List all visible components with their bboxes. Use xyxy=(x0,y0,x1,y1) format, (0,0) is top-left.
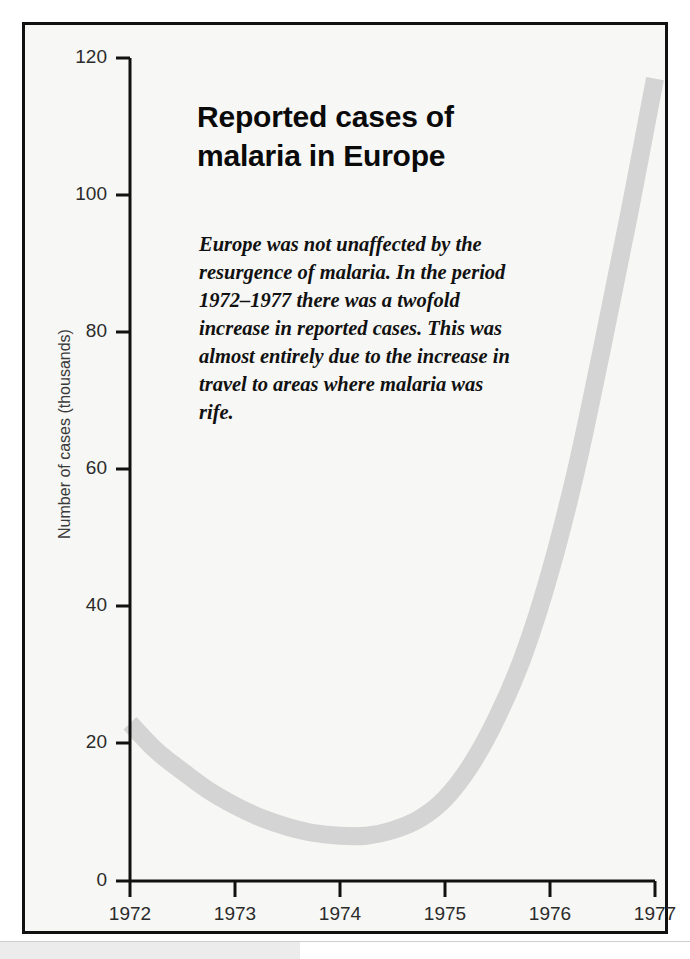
y-axis-title-text: Number of cases (thousands) xyxy=(56,329,73,539)
x-tick-label-1972: 1972 xyxy=(95,903,165,925)
y-axis-ticks xyxy=(116,58,130,881)
series-line-malaria-cases xyxy=(130,79,655,837)
chart-frame: 120 100 80 60 40 20 0 1972 1973 1974 197… xyxy=(22,22,668,934)
y-tick-label-100: 100 xyxy=(61,183,107,205)
figure-page: 120 100 80 60 40 20 0 1972 1973 1974 197… xyxy=(0,0,690,959)
x-tick-label-1974: 1974 xyxy=(305,903,375,925)
x-tick-label-1973: 1973 xyxy=(200,903,270,925)
y-tick-label-120: 120 xyxy=(61,46,107,68)
chart-title: Reported cases of malaria in Europe xyxy=(197,97,527,175)
chart-title-line-1: Reported cases of xyxy=(197,97,527,136)
x-tick-label-1975: 1975 xyxy=(410,903,480,925)
page-bottom-strip-shade xyxy=(0,942,300,959)
x-axis-ticks xyxy=(130,881,655,897)
page-bottom-strip xyxy=(0,941,690,959)
y-axis-title: Number of cases (thousands) xyxy=(56,314,74,554)
x-tick-label-1977: 1977 xyxy=(620,903,690,925)
y-tick-label-40: 40 xyxy=(61,594,107,616)
y-tick-label-0: 0 xyxy=(61,869,107,891)
chart-title-line-2: malaria in Europe xyxy=(197,136,527,175)
chart-note: Europe was not unaffected by the resurge… xyxy=(199,230,511,427)
y-tick-label-20: 20 xyxy=(61,731,107,753)
x-tick-label-1976: 1976 xyxy=(515,903,585,925)
